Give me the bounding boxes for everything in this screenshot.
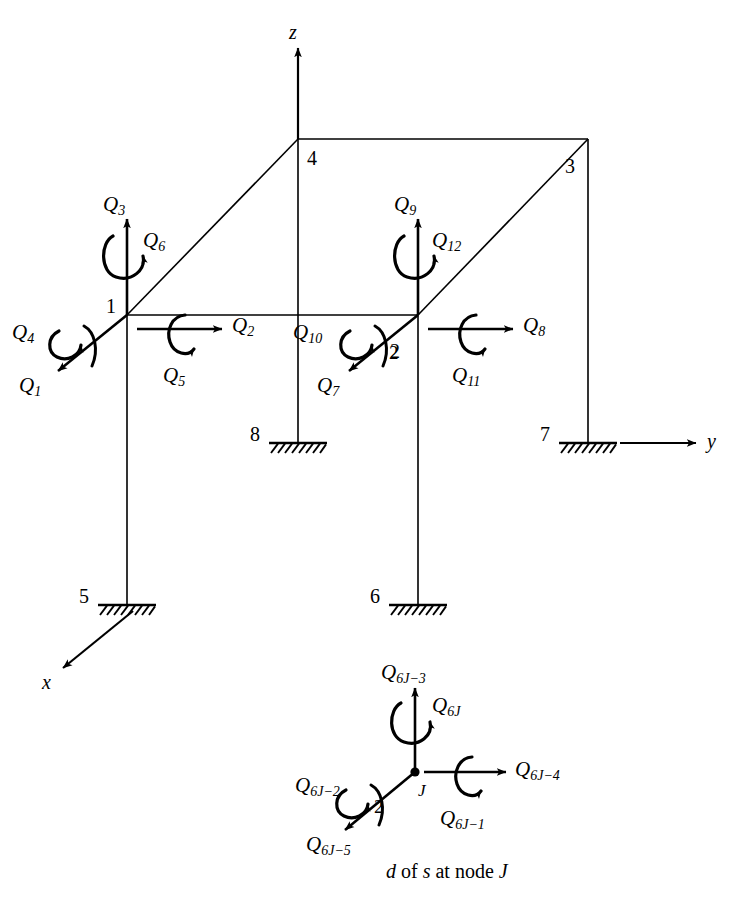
force-label-q5-base: Q	[163, 363, 178, 387]
force-label-q3: Q3	[103, 194, 125, 218]
torsion-arrow-q5	[169, 315, 194, 353]
node-1-force-arrows	[50, 219, 222, 371]
force-label-q11-sub: 11	[467, 374, 480, 389]
global-axes	[63, 48, 696, 668]
torsion-arrow-q12	[395, 236, 435, 278]
force-label-q1: Q1	[19, 375, 41, 399]
force-label-q6j-4-base: Q	[515, 757, 530, 781]
force-label-q4: Q4	[12, 322, 34, 346]
force-label-q8-base: Q	[523, 313, 538, 337]
node-label-8: 8	[250, 424, 260, 444]
force-label-q9: Q9	[394, 194, 416, 218]
torsion-arrow-q6j-1	[456, 757, 481, 795]
node-label-4: 4	[307, 148, 317, 168]
force-label-q6j-sub: 6J	[447, 704, 460, 719]
frame-geometry	[127, 139, 588, 605]
force-label-q6j: Q6J	[432, 695, 460, 719]
force-label-q5: Q5	[163, 365, 185, 389]
force-label-q6j-2: Q6J−2	[295, 775, 340, 799]
force-label-q6-base: Q	[143, 228, 158, 252]
force-label-q1-base: Q	[19, 373, 34, 397]
force-label-q8: Q8	[523, 315, 545, 339]
support-node-8	[269, 443, 327, 453]
force-label-q7: Q7	[317, 375, 339, 399]
force-label-q6j-2-base: Q	[295, 773, 310, 797]
force-label-q4-base: Q	[12, 320, 27, 344]
force-label-q10: Q10	[293, 322, 322, 346]
torsion-arrow-q6	[104, 236, 144, 278]
force-label-q5-sub: 5	[178, 374, 185, 389]
force-label-q6-sub: 6	[158, 239, 165, 254]
force-label-q6j-1-sub: 6J−1	[455, 817, 485, 832]
force-label-q6j-4-sub: 6J−4	[530, 768, 560, 783]
force-label-q2-sub: 2	[247, 324, 254, 339]
x-axis-label: x	[42, 672, 51, 692]
force-label-q7-base: Q	[317, 373, 332, 397]
inset-node-label-j: J	[418, 782, 426, 799]
force-label-q6j-3: Q6J−3	[381, 662, 426, 686]
force-label-q6j-3-base: Q	[381, 660, 396, 684]
force-label-q3-sub: 3	[118, 203, 125, 218]
force-label-q12-base: Q	[432, 228, 447, 252]
torsion-arrow-q11	[460, 315, 485, 353]
figure-caption: d of s at node J	[386, 861, 508, 881]
x-axis-arrow	[63, 611, 133, 668]
caption-at-node: at node	[435, 860, 493, 882]
space-frame-figure: z y x 1 2 3 4 5 6 7 8 Q3 Q6 Q2 Q5 Q4 Q1 …	[0, 0, 745, 910]
node-label-5: 5	[79, 586, 89, 606]
force-label-q4-sub: 4	[27, 331, 34, 346]
caption-of: of	[401, 860, 418, 882]
torsion-arrow-q6j-2	[337, 790, 368, 818]
support-node-5	[98, 605, 156, 615]
force-label-q6j-5-sub: 6J−5	[321, 843, 351, 858]
torsion-arrow-q6j	[392, 703, 431, 743]
y-axis-label: y	[707, 431, 716, 451]
force-label-q9-sub: 9	[409, 203, 416, 218]
caption-d: d	[386, 860, 396, 882]
node-label-6: 6	[370, 586, 380, 606]
z-axis-label: z	[289, 22, 297, 42]
beam-1-4	[127, 139, 298, 315]
force-label-q6j-1-base: Q	[440, 806, 455, 830]
beam-2-3	[418, 139, 588, 315]
caption-j: J	[499, 860, 508, 882]
force-label-q12-sub: 12	[447, 239, 461, 254]
force-label-q10-sub: 10	[308, 331, 322, 346]
node-label-7: 7	[540, 424, 550, 444]
support-node-6	[389, 605, 447, 615]
force-label-q6j-5: Q6J−5	[306, 834, 351, 858]
force-label-q10-base: Q	[293, 320, 308, 344]
caption-s: s	[423, 860, 431, 882]
force-label-q11-base: Q	[452, 363, 467, 387]
node-label-3: 3	[565, 156, 575, 176]
torsion-arrow-q4	[50, 331, 81, 359]
force-label-q2-base: Q	[232, 313, 247, 337]
double-arrow-mark-inset: 2	[374, 797, 384, 816]
force-label-q6j-4: Q6J−4	[515, 759, 560, 783]
force-label-q11: Q11	[452, 365, 480, 389]
force-label-q6j-3-sub: 6J−3	[396, 671, 426, 686]
force-label-q9-base: Q	[394, 192, 409, 216]
node-2-force-arrows	[341, 219, 513, 371]
force-label-q12: Q12	[432, 230, 461, 254]
force-label-q6j-base: Q	[432, 693, 447, 717]
force-label-q6j-1: Q6J−1	[440, 808, 485, 832]
diagram-vector-layer	[0, 0, 745, 910]
force-label-q6j-5-base: Q	[306, 832, 321, 856]
force-label-q2: Q2	[232, 315, 254, 339]
force-label-q6: Q6	[143, 230, 165, 254]
torsion-arrow-q10	[341, 331, 372, 359]
force-label-q1-sub: 1	[34, 384, 41, 399]
double-arrow-mark-node-2: 2	[389, 343, 399, 362]
support-node-7	[559, 443, 617, 453]
force-label-q7-sub: 7	[332, 384, 339, 399]
node-label-1: 1	[106, 296, 116, 316]
force-label-q6j-2-sub: 6J−2	[310, 784, 340, 799]
force-label-q8-sub: 8	[538, 324, 545, 339]
force-label-q3-base: Q	[103, 192, 118, 216]
